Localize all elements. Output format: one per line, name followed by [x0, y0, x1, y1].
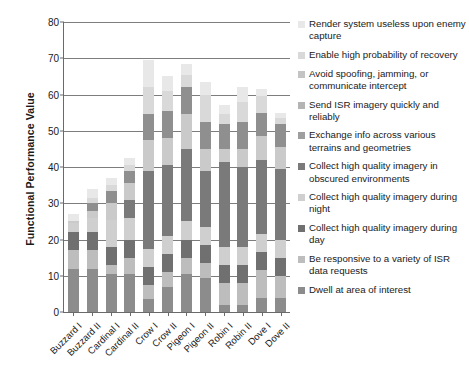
bar-segment — [87, 189, 98, 198]
bar-segment — [143, 267, 154, 285]
bar-segment — [219, 162, 230, 247]
legend-swatch-icon — [298, 256, 305, 263]
bar-segment — [275, 147, 286, 169]
bar-segment — [87, 203, 98, 210]
legend-item: Be responsive to a variety of ISR data r… — [298, 253, 466, 277]
x-tick-mark — [262, 312, 263, 316]
gridline — [64, 22, 290, 23]
bar-segment — [219, 265, 230, 283]
y-tick-label: 50 — [48, 125, 59, 136]
legend-item: Render system useless upon enemy capture — [298, 18, 466, 42]
y-tick-label: 60 — [48, 89, 59, 100]
bar-segment — [162, 236, 173, 254]
bar-segment — [256, 234, 267, 252]
x-tick-mark — [149, 312, 150, 316]
legend-swatch-icon — [298, 52, 305, 59]
bar-segment — [181, 258, 192, 274]
bar-segment — [143, 299, 154, 312]
bar-segment — [143, 171, 154, 249]
x-tick-mark — [281, 312, 282, 316]
legend-swatch-icon — [298, 287, 305, 294]
bar — [275, 113, 286, 312]
bar-segment — [200, 171, 211, 227]
bar-segment — [237, 265, 248, 283]
legend-label: Avoid spoofing, jamming, or communicate … — [309, 68, 466, 92]
y-tick-mark — [60, 167, 64, 168]
bar-segment — [87, 269, 98, 313]
legend-item: Dwell at area of interest — [298, 284, 466, 296]
legend-swatch-icon — [298, 21, 305, 28]
bar-segment — [275, 258, 286, 276]
y-tick-label: 30 — [48, 198, 59, 209]
bar-segment — [219, 247, 230, 265]
bar-segment — [256, 113, 267, 137]
bar-segment — [143, 60, 154, 87]
x-tick-mark — [168, 312, 169, 316]
bar-segment — [181, 221, 192, 239]
x-tick-mark — [243, 312, 244, 316]
bar-segment — [219, 124, 230, 149]
y-tick-mark — [60, 275, 64, 276]
bar-segment — [219, 114, 230, 123]
bar-segment — [256, 160, 267, 234]
legend-item: Collect high quality imagery during nigh… — [298, 191, 466, 215]
legend-item: Collect high quality imagery in obscured… — [298, 160, 466, 184]
bar-segment — [219, 105, 230, 114]
legend-swatch-icon — [298, 194, 305, 201]
bar-segment — [256, 89, 267, 96]
legend-label: Enable high probability of recovery — [309, 49, 458, 61]
bar-segment — [68, 232, 79, 250]
bar-segment — [275, 240, 286, 258]
plot-area: 01020304050607080 Buzzard IBuzzard IICar… — [64, 22, 290, 312]
y-tick-mark — [60, 58, 64, 59]
y-tick-label: 10 — [48, 270, 59, 281]
bar-segment — [106, 265, 117, 274]
bar-segment — [237, 102, 248, 122]
legend-label: Send ISR imagery quickly and reliably — [309, 99, 466, 123]
y-axis-title: Functional Performance Value — [24, 49, 36, 289]
bar-segment — [200, 122, 211, 149]
bar-segment — [256, 298, 267, 313]
bar-segment — [124, 258, 135, 274]
bar-segment — [124, 218, 135, 240]
bar-segment — [162, 254, 173, 272]
bar-segment — [143, 285, 154, 300]
bar — [124, 158, 135, 312]
bar-segment — [162, 91, 173, 111]
bar — [256, 89, 267, 312]
legend-item: Exchange info across various terrains an… — [298, 129, 466, 153]
legend-item: Collect high quality imagery during day — [298, 222, 466, 246]
bar-segment — [87, 211, 98, 218]
bar-segment — [237, 87, 248, 102]
legend-label: Render system useless upon enemy capture — [309, 18, 466, 42]
legend-swatch-icon — [298, 102, 305, 109]
bar-segment — [200, 245, 211, 263]
bar-segment — [181, 274, 192, 312]
y-tick-mark — [60, 22, 64, 23]
bar-segment — [162, 76, 173, 91]
y-tick-label: 70 — [48, 53, 59, 64]
legend-label: Exchange info across various terrains an… — [309, 129, 466, 153]
bar-segment — [162, 165, 173, 236]
bar-segment — [124, 158, 135, 165]
bar-segment — [275, 124, 286, 148]
bar-segment — [275, 169, 286, 240]
bar-segment — [237, 305, 248, 312]
bar-segment — [143, 140, 154, 171]
stacked-bar-chart-figure: Functional Performance Value 01020304050… — [0, 0, 469, 377]
x-tick-mark — [111, 312, 112, 316]
legend-item: Avoid spoofing, jamming, or communicate … — [298, 68, 466, 92]
bar-segment — [237, 167, 248, 247]
bar-segment — [237, 122, 248, 149]
bar-segment — [124, 183, 135, 199]
x-tick-mark — [186, 312, 187, 316]
bar-segment — [162, 287, 173, 312]
bar-segment — [181, 240, 192, 258]
y-tick-label: 20 — [48, 234, 59, 245]
bar — [68, 214, 79, 312]
bar — [162, 76, 173, 312]
y-tick-mark — [60, 312, 64, 313]
bar — [237, 87, 248, 312]
bar-segment — [143, 114, 154, 139]
gridline — [64, 58, 290, 59]
